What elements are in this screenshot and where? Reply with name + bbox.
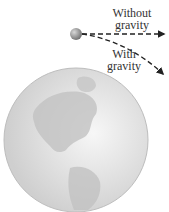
without-gravity-label-line2: gravity (106, 19, 158, 31)
with-gravity-label: With gravity (104, 48, 144, 72)
with-gravity-label-line2: gravity (104, 60, 144, 72)
without-gravity-label: Without gravity (106, 7, 158, 31)
earth-globe (4, 68, 148, 212)
projectile-ball (70, 28, 82, 40)
